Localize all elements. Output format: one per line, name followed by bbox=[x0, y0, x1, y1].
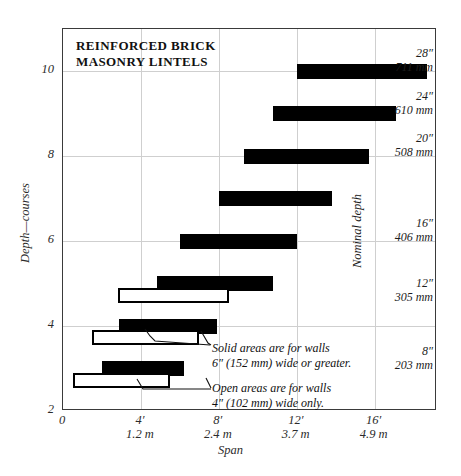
bar-solid bbox=[273, 106, 396, 121]
annotation-open-areas: Open areas are for walls 4″ (102 mm) wid… bbox=[212, 381, 331, 411]
nominal-depth-inches: 24″ bbox=[395, 89, 433, 103]
nominal-depth-mm: 508 mm bbox=[395, 145, 433, 159]
x-tick-feet: 16′ bbox=[339, 413, 409, 427]
nominal-depth-mm: 406 mm bbox=[395, 230, 433, 244]
nominal-depth-mm: 305 mm bbox=[395, 290, 433, 304]
nominal-depth-inches: 20″ bbox=[395, 131, 433, 145]
x-tick-label: 8′2.4 m bbox=[183, 413, 253, 441]
secondary-axis-label: Nominal depth bbox=[350, 194, 365, 268]
bar-solid bbox=[244, 149, 369, 164]
nominal-depth-label: 8″203 mm bbox=[395, 344, 433, 372]
nominal-depth-inches: 16″ bbox=[395, 216, 433, 230]
y-tick-label: 10 bbox=[28, 62, 54, 77]
nominal-depth-label: 28″711 mm bbox=[396, 46, 433, 74]
x-tick-label: 16′4.9 m bbox=[339, 413, 409, 441]
nominal-depth-mm: 203 mm bbox=[395, 358, 433, 372]
x-gridline bbox=[375, 29, 376, 409]
x-tick-meters: 2.4 m bbox=[183, 427, 253, 441]
x-gridline bbox=[141, 29, 142, 409]
x-tick-feet: 8′ bbox=[183, 413, 253, 427]
x-tick-meters: 4.9 m bbox=[339, 427, 409, 441]
bar-open bbox=[73, 373, 170, 388]
x-tick-label: 12′3.7 m bbox=[261, 413, 331, 441]
x-axis-label: Span bbox=[0, 443, 461, 458]
x-tick-feet: 0 bbox=[27, 413, 97, 427]
x-tick-label: 0 bbox=[27, 413, 97, 427]
y-axis-label: Depth—courses bbox=[18, 183, 33, 263]
y-tick-label: 4 bbox=[28, 317, 54, 332]
x-tick-feet: 12′ bbox=[261, 413, 331, 427]
nominal-depth-label: 12″305 mm bbox=[395, 276, 433, 304]
nominal-depth-inches: 8″ bbox=[395, 344, 433, 358]
y-tick-label: 8 bbox=[28, 147, 54, 162]
x-tick-meters: 3.7 m bbox=[261, 427, 331, 441]
x-tick-feet: 4′ bbox=[105, 413, 175, 427]
y-tick-label: 6 bbox=[28, 232, 54, 247]
x-tick-label: 4′1.2 m bbox=[105, 413, 175, 441]
bar-solid bbox=[219, 191, 332, 206]
nominal-depth-label: 16″406 mm bbox=[395, 216, 433, 244]
bar-solid bbox=[180, 234, 297, 249]
nominal-depth-mm: 711 mm bbox=[396, 60, 433, 74]
nominal-depth-inches: 12″ bbox=[395, 276, 433, 290]
annotation-solid-areas: Solid areas are for walls 6″ (152 mm) wi… bbox=[212, 341, 351, 371]
bar-open bbox=[118, 288, 229, 303]
nominal-depth-label: 20″508 mm bbox=[395, 131, 433, 159]
x-tick-meters: 1.2 m bbox=[105, 427, 175, 441]
nominal-depth-mm: 610 mm bbox=[395, 103, 433, 117]
bar-open bbox=[92, 330, 199, 345]
nominal-depth-inches: 28″ bbox=[396, 46, 433, 60]
nominal-depth-label: 24″610 mm bbox=[395, 89, 433, 117]
chart-title: REINFORCED BRICK MASONRY LINTELS bbox=[76, 38, 216, 70]
chart-figure: REINFORCED BRICK MASONRY LINTELS Depth—c… bbox=[0, 0, 461, 476]
